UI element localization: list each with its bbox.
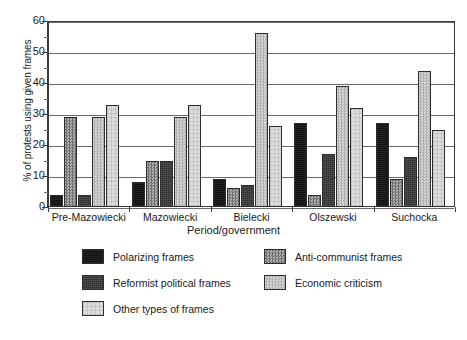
x-tick-2 — [211, 207, 212, 212]
bar — [106, 105, 119, 207]
bar-group-suchocka — [374, 21, 455, 207]
x-tick-3 — [292, 207, 293, 212]
bar-chart-figure: % of protests using given frames 0102030… — [0, 0, 467, 340]
x-tick-4 — [374, 207, 375, 212]
bar — [404, 157, 417, 207]
x-tick-0 — [48, 207, 49, 212]
bar — [213, 179, 226, 207]
bar — [227, 188, 240, 207]
bar — [132, 182, 145, 207]
bar-group-olszewski — [292, 21, 373, 207]
legend-label: Other types of frames — [113, 303, 214, 315]
bar — [50, 195, 63, 207]
bar — [269, 126, 282, 207]
legend-item: Economic criticism — [264, 275, 382, 290]
legend-swatch-icon — [82, 275, 104, 290]
bars-layer — [48, 21, 455, 207]
x-category-label-olszewski: Olszewski — [309, 211, 356, 223]
bar — [92, 117, 105, 207]
bar — [376, 123, 389, 207]
legend-label: Reformist political frames — [113, 277, 231, 289]
bar — [336, 86, 349, 207]
legend-item: Anti-communist frames — [264, 249, 402, 264]
legend-label: Polarizing frames — [113, 251, 194, 263]
bar — [174, 117, 187, 207]
gridline-0 — [49, 208, 454, 209]
bar — [78, 195, 91, 207]
bar — [418, 71, 431, 207]
legend-swatch-icon — [264, 249, 286, 264]
x-category-label-pre-mazowiecki: Pre-Mazowiecki — [52, 211, 126, 223]
bar-group-pre-mazowiecki — [48, 21, 129, 207]
x-category-label-bielecki: Bielecki — [233, 211, 269, 223]
legend-item: Other types of frames — [82, 301, 214, 316]
x-category-label-suchocka: Suchocka — [391, 211, 437, 223]
bar — [390, 179, 403, 207]
bar — [432, 130, 445, 208]
legend-label: Anti-communist frames — [295, 251, 402, 263]
legend-swatch-icon — [264, 275, 286, 290]
legend-swatch-icon — [82, 249, 104, 264]
legend-label: Economic criticism — [295, 277, 382, 289]
legend-item: Reformist political frames — [82, 275, 231, 290]
x-tick-1 — [129, 207, 130, 212]
bar — [146, 161, 159, 208]
x-category-label-mazowiecki: Mazowiecki — [143, 211, 197, 223]
legend-item: Polarizing frames — [82, 249, 194, 264]
bar-group-mazowiecki — [129, 21, 210, 207]
bar — [188, 105, 201, 207]
bar — [308, 195, 321, 207]
legend-swatch-icon — [82, 301, 104, 316]
bar — [322, 154, 335, 207]
bar-group-bielecki — [211, 21, 292, 207]
x-tick-5 — [455, 207, 456, 212]
bar — [294, 123, 307, 207]
bar — [64, 117, 77, 207]
bar — [255, 33, 268, 207]
x-axis-title: Period/government — [0, 224, 467, 236]
bar — [350, 108, 363, 207]
bar — [241, 185, 254, 207]
bar — [160, 161, 173, 208]
